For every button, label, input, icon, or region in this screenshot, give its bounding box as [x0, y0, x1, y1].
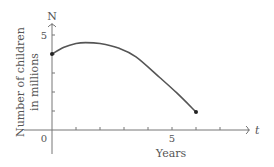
chart: 055 Number of children in millions Years…: [0, 0, 274, 167]
data-point: [194, 110, 198, 114]
x-axis-symbol: t: [255, 124, 260, 137]
y-axis-label: Number of children: [14, 27, 27, 137]
y-tick-label: 5: [41, 30, 47, 41]
ticks: 055: [41, 30, 220, 144]
y-axis-label-line2: in millions: [28, 53, 41, 111]
x-tick-label: 5: [169, 133, 175, 144]
axes: [24, 23, 250, 154]
series-line: [52, 43, 196, 112]
endpoints: [50, 52, 198, 114]
data-point: [50, 52, 54, 56]
y-axis-symbol: N: [47, 10, 57, 23]
x-axis-label: Years: [155, 147, 187, 160]
x-tick-label: 0: [41, 133, 47, 144]
